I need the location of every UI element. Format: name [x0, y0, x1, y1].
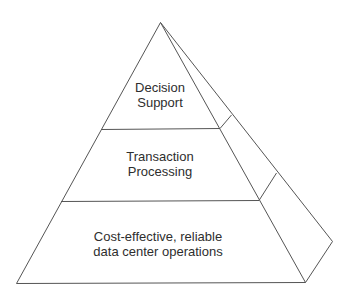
pyramid-diagram: Decision Support Transaction Processing … [0, 0, 349, 298]
tier-bottom-line-1: Cost-effective, reliable [93, 229, 222, 244]
side-divider-1 [220, 115, 232, 129]
tier-middle-line-1: Transaction [126, 149, 193, 164]
side-divider-2 [259, 173, 277, 201]
tier-label-top: Decision Support [135, 80, 185, 110]
tier-label-bottom: Cost-effective, reliable data center ope… [93, 229, 222, 259]
tier-divider-2 [61, 201, 259, 202]
tier-label-middle: Transaction Processing [126, 149, 193, 179]
tier-middle-line-2: Processing [126, 164, 193, 179]
tier-divider-1 [101, 129, 220, 130]
tier-bottom-line-2: data center operations [93, 244, 222, 259]
tier-top-line-1: Decision [135, 80, 185, 95]
tier-top-line-2: Support [135, 95, 185, 110]
